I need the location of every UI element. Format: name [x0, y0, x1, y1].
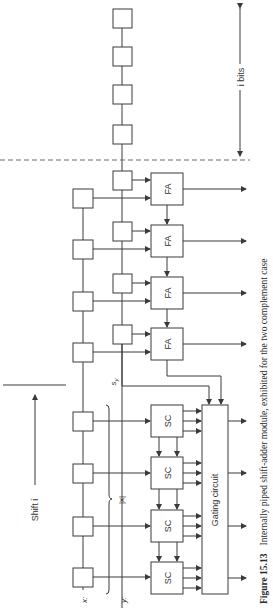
- x-input-label: x:: [80, 597, 89, 604]
- figure-caption: Figure 15.13Internally piped shift-adder…: [259, 258, 269, 604]
- abs-x-brace: [106, 405, 112, 594]
- sign-label: sy: [109, 378, 119, 386]
- svg-text:FA: FA: [163, 235, 173, 246]
- abs-x-label: |x|: [117, 496, 126, 504]
- x-register-cells: [73, 189, 150, 587]
- sign-complement-chain: SC SC SC SC: [151, 405, 201, 594]
- shift-label: Shift i: [30, 499, 40, 522]
- svg-text:SC: SC: [163, 414, 173, 427]
- i-bits-label: i bits: [236, 67, 246, 86]
- svg-text:SC: SC: [163, 466, 173, 479]
- gating-circuit: Gating circuit: [202, 405, 246, 594]
- full-adder-chain: FA FA FA FA: [151, 173, 246, 360]
- svg-text:FA: FA: [163, 183, 173, 194]
- svg-text:SC: SC: [163, 571, 173, 584]
- carry-to-gating: [167, 360, 221, 404]
- svg-text:SC: SC: [163, 519, 173, 532]
- svg-text:FA: FA: [163, 287, 173, 298]
- svg-text:FA: FA: [163, 338, 173, 349]
- y-register-cells: [113, 171, 150, 344]
- y-input-label: y:: [119, 597, 128, 604]
- shift-adder-diagram: FA FA FA FA SC SC SC SC: [0, 0, 273, 608]
- svg-text:Gating circuit: Gating circuit: [210, 473, 220, 526]
